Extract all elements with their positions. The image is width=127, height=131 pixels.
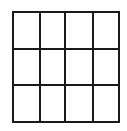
grid-cell-r1-c3 (65, 12, 93, 49)
grid-cell-r2-c2 (40, 49, 65, 85)
grid-cell-r3-c4 (93, 85, 119, 122)
grid-cell-r1-c4 (93, 12, 119, 49)
grid-diagram (0, 0, 127, 131)
grid-cell-r2-c4 (93, 49, 119, 85)
grid-cell-r1-c2 (40, 12, 65, 49)
grid-cell-r3-c2 (40, 85, 65, 122)
grid-cell-r1-c1 (13, 12, 40, 49)
grid-cell-r3-c3 (65, 85, 93, 122)
grid-cell-r2-c1 (13, 49, 40, 85)
grid-cell-r2-c3 (65, 49, 93, 85)
grid-cell-r3-c1 (13, 85, 40, 122)
